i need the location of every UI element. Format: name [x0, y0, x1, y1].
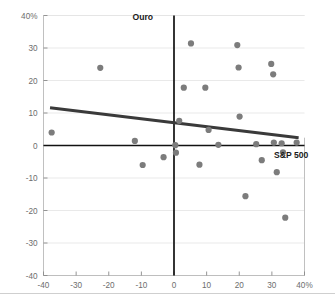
- y-tick-label: -40: [26, 272, 38, 281]
- data-point: [259, 157, 265, 163]
- data-point: [274, 169, 280, 175]
- data-point: [282, 215, 288, 221]
- data-point: [172, 142, 178, 148]
- data-point: [202, 85, 208, 91]
- x-tick-label: -20: [103, 281, 115, 290]
- x-tick-label: -10: [135, 281, 147, 290]
- x-tick-labels: -40-30-20-10010203040%: [38, 281, 313, 290]
- data-point: [268, 61, 274, 67]
- data-point: [270, 71, 276, 77]
- data-point: [234, 42, 240, 48]
- data-point: [132, 138, 138, 144]
- y-tick-label: -10: [26, 174, 38, 183]
- data-point: [140, 162, 146, 168]
- y-tick-label: 0: [33, 142, 38, 151]
- data-point: [181, 85, 187, 91]
- data-point: [160, 154, 166, 160]
- data-point: [253, 141, 259, 147]
- y-tick-label: -30: [26, 239, 38, 248]
- data-point: [173, 150, 179, 156]
- axis-name-labels: Ouro S&P 500: [132, 12, 308, 160]
- y-axis-name-label: Ouro: [132, 12, 153, 22]
- x-tick-label: -40: [38, 281, 50, 290]
- data-point: [235, 64, 241, 70]
- chart-canvas: 40%3020100-10-20-30-40 -40-30-20-1001020…: [0, 0, 335, 303]
- x-tick-label: 0: [172, 281, 177, 290]
- data-point: [215, 142, 221, 148]
- data-point: [196, 162, 202, 168]
- y-tick-label: 20: [28, 77, 38, 86]
- y-tick-label: 30: [28, 44, 38, 53]
- x-tick-label: 10: [202, 281, 212, 290]
- data-point: [205, 127, 211, 133]
- x-tick-label: 20: [235, 281, 245, 290]
- x-tick-label: -30: [70, 281, 82, 290]
- data-point: [97, 65, 103, 71]
- y-tick-labels: 40%3020100-10-20-30-40: [21, 12, 38, 281]
- data-point: [236, 113, 242, 119]
- x-tick-label: 30: [267, 281, 277, 290]
- x-axis-name-label: S&P 500: [274, 150, 308, 160]
- data-point: [294, 139, 300, 145]
- data-point: [242, 193, 248, 199]
- x-tick-label: 40%: [296, 281, 312, 290]
- y-tick-label: 10: [28, 109, 38, 118]
- data-point: [188, 40, 194, 46]
- scatter-chart: 40%3020100-10-20-30-40 -40-30-20-1001020…: [0, 0, 335, 303]
- y-tick-label: -20: [26, 207, 38, 216]
- data-point: [271, 139, 277, 145]
- data-point: [279, 140, 285, 146]
- data-point: [49, 129, 55, 135]
- data-point: [176, 118, 182, 124]
- y-tick-label: 40%: [21, 12, 37, 21]
